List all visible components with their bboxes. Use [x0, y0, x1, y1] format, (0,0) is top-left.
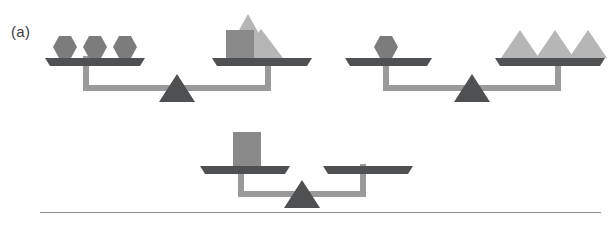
- left-pan-1: [45, 58, 145, 66]
- left-pan-3: [200, 166, 290, 174]
- square-item: [226, 30, 254, 58]
- figure-panel-a: (a): [0, 0, 615, 227]
- caption-divider: [40, 212, 601, 213]
- left-pan-items-1: [53, 36, 137, 58]
- pan-plate: [212, 58, 312, 66]
- balance-scale-3: [195, 124, 435, 214]
- right-pan-1: [212, 58, 312, 66]
- pan-plate: [345, 58, 432, 66]
- hexagon-item: [113, 36, 137, 58]
- balance-scale-2: [340, 12, 610, 112]
- right-pan-items-2: [501, 30, 607, 58]
- hexagon-item: [83, 36, 107, 58]
- square-item: [233, 132, 261, 166]
- panel-label: (a): [11, 24, 30, 39]
- triangle-item: [536, 30, 574, 58]
- right-pan-2: [495, 58, 605, 66]
- right-pan-items-1: [226, 14, 283, 58]
- left-pan-items-3: [233, 132, 261, 166]
- hexagon-item: [53, 36, 77, 58]
- triangle-item: [501, 30, 539, 58]
- right-pan-3: [323, 166, 413, 174]
- hexagon-item: [374, 36, 398, 58]
- left-pan-2: [345, 58, 432, 66]
- balance-scale-1: [40, 12, 320, 112]
- triangle-item: [569, 30, 607, 58]
- pan-plate: [45, 58, 145, 66]
- pan-plate: [495, 58, 605, 66]
- pan-plate: [323, 166, 413, 174]
- pan-plate: [200, 166, 290, 174]
- left-pan-items-2: [374, 36, 398, 58]
